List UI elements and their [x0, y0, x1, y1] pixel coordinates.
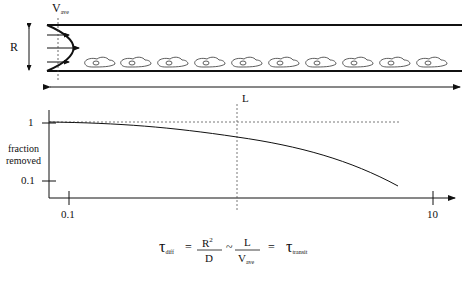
cells: [85, 57, 447, 67]
fraction-removed-curve: [49, 122, 398, 186]
cell-icon: [343, 57, 373, 67]
cell-icon: [380, 57, 410, 67]
cell-icon: [269, 57, 299, 67]
tau-diff: τdiff: [159, 238, 174, 256]
equals-sign: =: [185, 240, 192, 255]
numerator-l: L: [244, 236, 251, 248]
tau-transit: τtransit: [286, 238, 307, 256]
cell-icon: [195, 57, 225, 67]
y-tick-label-0.1: 0.1: [21, 174, 35, 186]
numerator-r2: R2: [202, 236, 213, 249]
chart: [42, 104, 455, 210]
cell-icon: [417, 57, 447, 67]
y-axis-label: fraction removed: [6, 143, 41, 167]
cell-icon: [306, 57, 336, 67]
radius-label: R: [10, 40, 18, 55]
x-tick-label-0.1: 0.1: [61, 208, 75, 220]
denominator-vave: Vave: [238, 252, 254, 265]
approx-sign: ~: [226, 240, 233, 255]
cell-icon: [121, 57, 151, 67]
cell-icon: [158, 57, 188, 67]
denominator-d: D: [205, 252, 213, 264]
channel: [29, 18, 462, 87]
length-label: L: [242, 92, 249, 104]
cell-icon: [85, 57, 115, 67]
cell-icon: [232, 57, 262, 67]
x-tick-label-10: 10: [427, 208, 438, 220]
equals-sign-2: =: [268, 240, 275, 255]
y-tick-label-1: 1: [28, 116, 34, 128]
velocity-label: Vave: [52, 1, 69, 16]
